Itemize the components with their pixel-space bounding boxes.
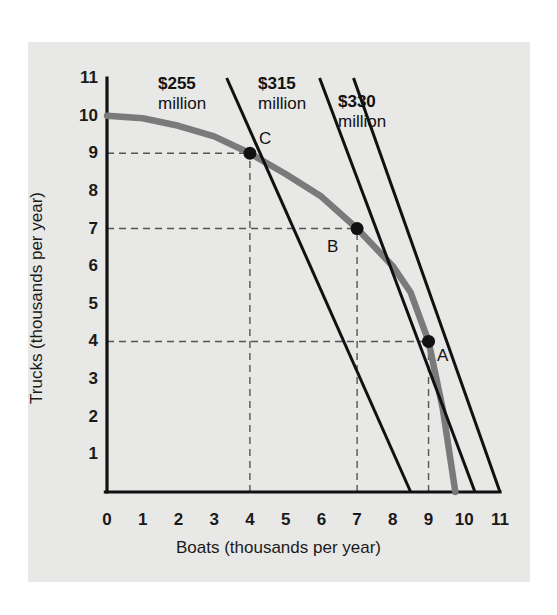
y-tick-9: 9 [70, 143, 98, 163]
y-tick-8: 8 [70, 181, 98, 201]
x-tick-8: 8 [379, 510, 407, 530]
cost-330-amount: $330 [338, 92, 386, 112]
cost-255-unit: million [158, 94, 206, 114]
x-tick-7: 7 [343, 510, 371, 530]
y-tick-11: 11 [70, 68, 98, 88]
cost-315-unit: million [258, 94, 306, 114]
x-tick-6: 6 [307, 510, 335, 530]
y-axis-title: Trucks (thousands per year) [27, 183, 47, 413]
y-tick-4: 4 [70, 331, 98, 351]
y-tick-6: 6 [70, 256, 98, 276]
point-label-c: C [259, 129, 271, 149]
x-tick-11: 11 [486, 510, 514, 530]
cost-330-unit: million [338, 112, 386, 132]
x-tick-0: 0 [93, 510, 121, 530]
y-tick-2: 2 [70, 407, 98, 427]
cost-255-amount: $255 [158, 74, 206, 94]
chart-page: 1234567891011 01234567891011 Trucks (tho… [0, 0, 557, 615]
x-tick-4: 4 [236, 510, 264, 530]
y-tick-10: 10 [70, 106, 98, 126]
y-tick-1: 1 [70, 444, 98, 464]
x-tick-5: 5 [272, 510, 300, 530]
cost-label-255: $255 million [158, 74, 206, 114]
cost-label-330: $330 million [338, 92, 386, 132]
y-tick-5: 5 [70, 294, 98, 314]
figure-panel [28, 42, 530, 582]
x-tick-1: 1 [129, 510, 157, 530]
point-label-a: A [437, 346, 448, 366]
x-tick-9: 9 [415, 510, 443, 530]
x-tick-2: 2 [164, 510, 192, 530]
cost-label-315: $315 million [258, 74, 306, 114]
x-axis-title: Boats (thousands per year) [0, 538, 557, 558]
x-tick-3: 3 [200, 510, 228, 530]
x-tick-10: 10 [450, 510, 478, 530]
cost-315-amount: $315 [258, 74, 306, 94]
y-tick-3: 3 [70, 369, 98, 389]
y-tick-7: 7 [70, 219, 98, 239]
point-label-b: B [327, 237, 338, 257]
